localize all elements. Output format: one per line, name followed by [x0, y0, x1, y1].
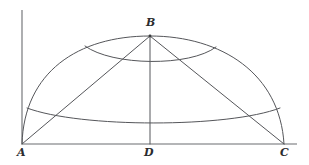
- point-label-c: C: [280, 147, 289, 158]
- chord-ab: [22, 36, 150, 144]
- vertex-dot-b: [149, 35, 152, 38]
- outer-arc-abc: [22, 36, 284, 144]
- point-label-a: A: [17, 147, 26, 158]
- point-label-b: B: [146, 17, 155, 28]
- point-label-d: D: [144, 147, 154, 158]
- chord-bc: [150, 36, 284, 144]
- geometry-figure: A B D C: [0, 0, 309, 165]
